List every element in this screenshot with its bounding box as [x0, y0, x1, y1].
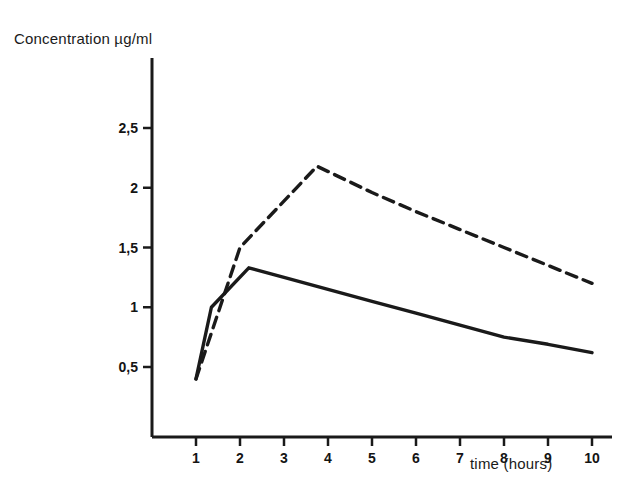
x-tick-label: 4: [324, 450, 332, 466]
dashed-curve: [196, 166, 592, 379]
x-tick-label: 1: [192, 450, 200, 466]
tick-marks: [143, 128, 592, 446]
axis-lines: [152, 58, 612, 437]
x-axis-title: time (hours): [470, 455, 552, 472]
plot-area: [0, 0, 634, 492]
solid-curve: [196, 268, 592, 379]
y-tick-label: 1,5: [119, 240, 138, 256]
y-tick-label: 2: [130, 180, 138, 196]
y-tick-label: 1: [130, 299, 138, 315]
x-tick-label: 10: [584, 450, 600, 466]
y-tick-label: 0,5: [119, 359, 138, 375]
x-tick-label: 7: [456, 450, 464, 466]
chart-container: Concentration µg/ml 0,511,522,5 12345678…: [0, 0, 634, 492]
series-lines: [196, 166, 592, 379]
x-tick-label: 5: [368, 450, 376, 466]
x-tick-label: 2: [236, 450, 244, 466]
x-tick-label: 6: [412, 450, 420, 466]
x-tick-label: 3: [280, 450, 288, 466]
y-tick-label: 2,5: [119, 120, 138, 136]
